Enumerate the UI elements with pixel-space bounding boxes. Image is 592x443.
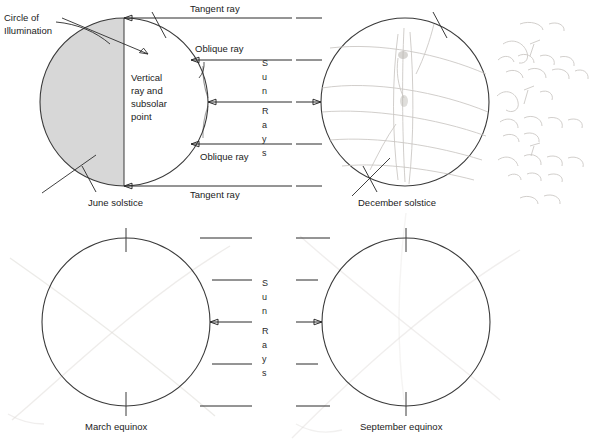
sun-rays-letter-u-bottom: u [262, 292, 267, 302]
tangent-ray-top-label-june: Tangent ray [190, 3, 240, 14]
caption-march-equinox: March equinox [85, 421, 148, 432]
caption-december-solstice: December solstice [358, 197, 436, 208]
vertical-ray-label-line3: subsolar [131, 98, 167, 109]
sun-rays-letter-y-bottom: y [262, 354, 267, 364]
vertical-ray-label-line1: Vertical [131, 72, 162, 83]
sun-rays-letter-r-top: R [262, 106, 269, 116]
vertical-ray-label-line4: point [131, 111, 152, 122]
tangent-ray-bottom-label-june: Tangent ray [190, 189, 240, 200]
circle-of-illumination-label-line1: Circle of [4, 12, 39, 23]
caption-september-equinox: September equinox [360, 421, 443, 432]
sun-rays-letter-n-top: n [262, 86, 267, 96]
circle-of-illumination-label-line2: Illumination [4, 25, 52, 36]
sun-rays-letter-a-bottom: a [262, 340, 267, 350]
sun-rays-letter-s2-top: s [262, 148, 267, 158]
sun-rays-letter-s-bottom: S [262, 278, 268, 288]
sun-rays-letter-s2-bottom: s [262, 368, 267, 378]
sun-rays-letter-n-bottom: n [262, 306, 267, 316]
sun-rays-letter-r-bottom: R [262, 326, 269, 336]
sun-rays-letter-y-top: y [262, 134, 267, 144]
caption-june-solstice: June solstice [88, 197, 143, 208]
oblique-ray-top-label-june: Oblique ray [195, 43, 244, 54]
seasons-diagram: Circle of Illumination Tangent ray Obliq… [0, 0, 592, 443]
oblique-ray-bottom-label-june: Oblique ray [200, 151, 249, 162]
vertical-ray-label-line2: ray and [131, 85, 163, 96]
sun-rays-letter-s-top: S [262, 58, 268, 68]
sun-rays-letter-a-top: a [262, 120, 267, 130]
sun-rays-letter-u-top: u [262, 72, 267, 82]
